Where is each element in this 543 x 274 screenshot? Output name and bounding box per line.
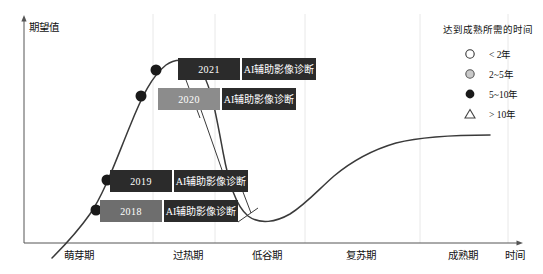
annotation-2021[interactable]: 2021 AI辅助影像诊断 <box>178 58 316 80</box>
gray-circle-icon <box>466 70 474 78</box>
annotation-2021-tech: AI辅助影像诊断 <box>244 63 315 75</box>
legend-item-2-label: 5~10年 <box>489 89 518 100</box>
legend-item-1-label: 2~5年 <box>489 69 514 80</box>
data-point-2021[interactable] <box>151 65 162 76</box>
annotation-2019[interactable]: 2019 AI辅助影像诊断 <box>110 170 248 192</box>
y-axis-label: 期望值 <box>29 21 60 33</box>
y-axis-arrow <box>21 15 26 22</box>
x-tick-labels: 萌芽期 过热期 低谷期 复苏期 成熟期 时间 <box>64 249 525 261</box>
x-tick-label-3: 复苏期 <box>346 249 376 261</box>
x-tick-label-4: 成熟期 <box>448 249 478 261</box>
annotation-2019-tech: AI辅助影像诊断 <box>176 175 247 187</box>
annotation-2020[interactable]: 2020 AI辅助影像诊断 <box>158 88 296 110</box>
data-point-2018[interactable] <box>91 205 102 216</box>
annotation-2018-tech: AI辅助影像诊断 <box>166 205 237 217</box>
legend-item-3[interactable]: > 10年 <box>465 109 516 120</box>
legend-item-0[interactable]: < 2年 <box>466 49 512 60</box>
legend-item-0-label: < 2年 <box>489 49 511 60</box>
connector-2020 <box>201 110 222 170</box>
annotation-2020-tech: AI辅助影像诊断 <box>224 93 295 105</box>
legend-item-3-label: > 10年 <box>489 109 516 120</box>
legend-item-2[interactable]: 5~10年 <box>466 89 519 100</box>
annotation-2020-year: 2020 <box>178 94 200 105</box>
x-axis-label: 时间 <box>505 249 525 261</box>
legend-title: 达到成熟所需的时间 <box>443 24 533 35</box>
x-tick-label-1: 过热期 <box>173 249 203 261</box>
connector-2019 <box>243 192 251 213</box>
data-point-2020[interactable] <box>136 91 147 102</box>
open-triangle-icon <box>465 110 475 119</box>
legend: 达到成熟所需的时间 < 2年 2~5年 5~10年 > 10年 <box>443 24 533 120</box>
annotation-2019-year: 2019 <box>130 176 152 187</box>
x-axis-arrow <box>517 240 524 245</box>
x-tick-label-0: 萌芽期 <box>64 249 94 261</box>
open-circle-icon <box>466 50 474 58</box>
y-axis <box>21 15 26 243</box>
annotation-2018-year: 2018 <box>120 206 142 217</box>
chart-canvas: 期望值 萌芽期 过热期 低谷期 复苏期 成熟期 时间 <box>0 0 543 274</box>
legend-item-1[interactable]: 2~5年 <box>466 69 514 80</box>
filled-circle-icon <box>466 90 475 99</box>
data-points <box>91 65 162 216</box>
x-tick-label-2: 低谷期 <box>252 249 282 261</box>
hype-cycle-chart: 期望值 萌芽期 过热期 低谷期 复苏期 成熟期 时间 <box>0 0 543 274</box>
annotation-2021-year: 2021 <box>198 64 220 75</box>
annotation-2018[interactable]: 2018 AI辅助影像诊断 <box>100 200 238 222</box>
x-axis <box>24 240 523 245</box>
